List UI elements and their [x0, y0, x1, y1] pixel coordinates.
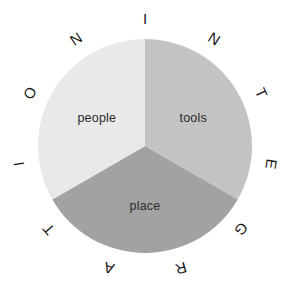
pie-slice-label-place: place [130, 199, 161, 213]
pie-chart [0, 0, 294, 298]
pie-slice-label-people: people [77, 111, 116, 125]
pie-slices [38, 39, 252, 253]
pie-slice-label-tools: tools [179, 111, 206, 125]
integration-pie-figure: INTEGRATION INTEGRATION people tools pla… [0, 0, 294, 298]
